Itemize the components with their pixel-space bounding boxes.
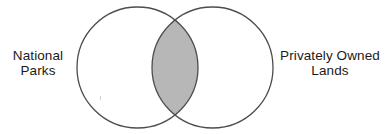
- right-set-label-line-2: Lands: [276, 63, 384, 78]
- left-set-label-line-2: Parks: [4, 63, 72, 78]
- scan-speck-artifact: [100, 96, 101, 100]
- venn-diagram-figure: National Parks Privately Owned Lands: [0, 0, 392, 134]
- left-set-label: National Parks: [4, 48, 72, 78]
- right-set-label-line-1: Privately Owned: [276, 48, 384, 63]
- right-set-label: Privately Owned Lands: [276, 48, 384, 78]
- left-set-label-line-1: National: [4, 48, 72, 63]
